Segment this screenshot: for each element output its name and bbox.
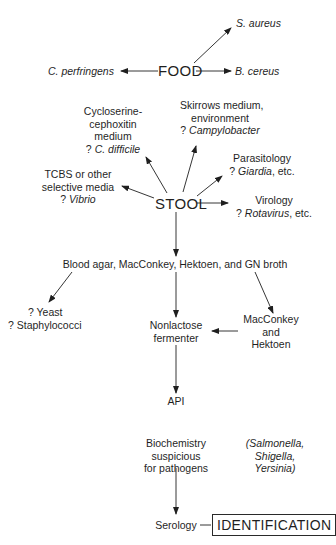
pathogens-label: (Salmonella, Shigella, Yersinia) <box>240 437 310 475</box>
arrow-stool-parasitology <box>197 176 222 196</box>
arrow-stool-tcbs <box>122 186 154 198</box>
s-aureus-label: S. aureus <box>236 17 281 30</box>
yeast-label: ? Yeast ? Staphylococci <box>8 306 88 331</box>
arrow-stool-skirrow <box>183 146 196 192</box>
parasitology-line2: ? Giardia, etc. <box>222 165 302 178</box>
arrow-media-machek <box>255 272 273 313</box>
machek-line2: and <box>240 326 302 339</box>
parasitology-label: Parasitology ? Giardia, etc. <box>222 152 302 177</box>
arrow-stool-cyclo <box>146 157 167 193</box>
skirrow-line2: environment <box>180 112 260 125</box>
arrow-food-s-aureus <box>194 28 231 63</box>
machek-line3: Hektoen <box>240 338 302 351</box>
nonlactose-line2: fermenter <box>144 332 208 345</box>
machek-line1: MacConkey <box>240 313 302 326</box>
virology-suffix: , etc. <box>289 207 312 219</box>
virology-line1: Virology <box>234 194 314 207</box>
tcbs-organism: Vibrio <box>69 193 96 205</box>
tcbs-label: TCBS or other selective media ? Vibrio <box>40 168 116 206</box>
pathogens-line2: Shigella, <box>240 450 310 463</box>
cyclo-organism: C. difficile <box>95 143 141 155</box>
cyclo-label: Cycloserine- cephoxitin medium ? C. diff… <box>78 105 148 155</box>
yeast-line2: ? Staphylococci <box>8 319 88 332</box>
biochem-line3: for pathogens <box>136 462 216 475</box>
yeast-line1: ? Yeast <box>8 306 88 319</box>
nonlactose-line1: Nonlactose <box>144 319 208 332</box>
arrow-media-yeast <box>49 272 72 302</box>
parasitology-q: ? <box>229 165 238 177</box>
tcbs-line2: selective media <box>40 181 116 194</box>
nonlactose-label: Nonlactose fermenter <box>144 319 208 344</box>
parasitology-suffix: , etc. <box>272 165 295 177</box>
cyclo-line2: cephoxitin <box>78 118 148 131</box>
tcbs-q: ? <box>60 193 69 205</box>
pathogens-line1: (Salmonella, <box>240 437 310 450</box>
biochem-line1: Biochemistry <box>136 437 216 450</box>
skirrow-line3: ? Campylobacter <box>180 124 260 137</box>
virology-organism: Rotavirus <box>245 207 289 219</box>
b-cereus-label: B. cereus <box>235 65 279 78</box>
cyclo-line3: medium <box>78 130 148 143</box>
c-perfringens-label: C. perfringens <box>48 65 114 78</box>
cyclo-q: ? <box>86 143 95 155</box>
skirrow-q: ? <box>180 124 189 136</box>
tcbs-line3: ? Vibrio <box>40 193 116 206</box>
skirrow-label: Skirrows medium, environment ? Campyloba… <box>180 99 260 137</box>
virology-label: Virology ? Rotavirus, etc. <box>234 194 314 219</box>
skirrow-organism: Campylobacter <box>189 124 260 136</box>
machek-label: MacConkey and Hektoen <box>240 313 302 351</box>
skirrow-line1: Skirrows medium, <box>180 99 260 112</box>
stool-node: STOOL <box>155 195 199 212</box>
food-node: FOOD <box>158 62 198 79</box>
api-label: API <box>160 395 192 408</box>
cyclo-line1: Cycloserine- <box>78 105 148 118</box>
identification-box: IDENTIFICATION <box>212 514 336 536</box>
virology-q: ? <box>236 207 245 219</box>
biochem-label: Biochemistry suspicious for pathogens <box>136 437 216 475</box>
parasitology-organism: Giardia <box>238 165 272 177</box>
media-label: Blood agar, MacConkey, Hektoen, and GN b… <box>55 258 295 271</box>
virology-line2: ? Rotavirus, etc. <box>234 207 314 220</box>
tcbs-line1: TCBS or other <box>40 168 116 181</box>
serology-label: Serology <box>152 519 200 532</box>
parasitology-line1: Parasitology <box>222 152 302 165</box>
cyclo-line4: ? C. difficile <box>78 143 148 156</box>
pathogens-line3: Yersinia) <box>240 462 310 475</box>
biochem-line2: suspicious <box>136 450 216 463</box>
